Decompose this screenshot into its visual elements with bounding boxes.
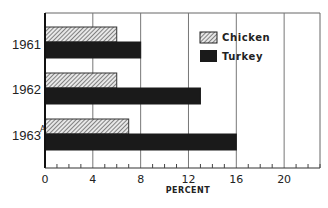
- category-labels: 196119621963A: [12, 37, 46, 143]
- legend-label-turkey: Turkey: [222, 51, 263, 62]
- bar-chicken-1963: [45, 119, 129, 134]
- x-tick-label: 16: [229, 173, 243, 186]
- x-tick-label: 4: [89, 173, 96, 186]
- legend: Chicken Turkey: [200, 32, 270, 62]
- x-tick-labels: 048121620: [42, 173, 292, 186]
- category-label-1961: 1961: [12, 37, 41, 52]
- x-tick-label: 0: [42, 173, 49, 186]
- x-axis-label: PERCENT: [166, 186, 211, 195]
- category-label-1963: 1963: [12, 128, 41, 143]
- category-footnote-marker: A: [40, 125, 46, 134]
- legend-swatch-chicken: [200, 32, 217, 43]
- x-tick-label: 20: [277, 173, 291, 186]
- bar-chart: 196119621963A 048121620 PERCENT Chicken …: [0, 0, 328, 208]
- legend-label-chicken: Chicken: [222, 32, 270, 43]
- bar-turkey-1962: [45, 88, 200, 104]
- bar-chicken-1961: [45, 27, 117, 42]
- bar-turkey-1963: [45, 134, 236, 150]
- category-label-1962: 1962: [12, 82, 41, 97]
- bar-turkey-1961: [45, 42, 141, 58]
- legend-swatch-turkey: [200, 50, 217, 62]
- bar-chicken-1962: [45, 73, 117, 88]
- x-tick-label: 12: [181, 173, 195, 186]
- x-tick-label: 8: [137, 173, 144, 186]
